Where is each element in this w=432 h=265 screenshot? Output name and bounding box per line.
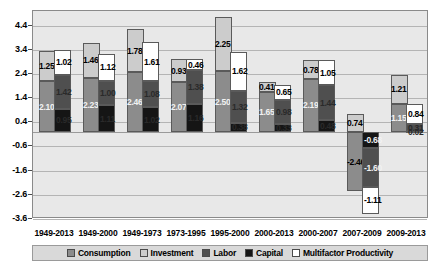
- x-tick-label: 2009-2013: [387, 228, 426, 238]
- bar-stack-supply: 1.111.001.12: [99, 11, 114, 219]
- bar-chart: 4.43.42.41.40.4-0.6-1.6-2.6-3.6 2.101.25…: [0, 0, 432, 265]
- x-tick-label: 2007-2009: [343, 228, 382, 238]
- bar-value-label: 2.23: [83, 101, 98, 110]
- bar-value-label: 1.02: [56, 58, 71, 67]
- bar-value-label: -1.60: [364, 164, 382, 173]
- bar-value-label: 0.38: [232, 123, 247, 132]
- bar-stack-demand: 1.151.21: [392, 11, 407, 219]
- bar-value-label: 1.11: [100, 115, 115, 124]
- bar-value-label: 0.31: [408, 124, 423, 133]
- bar-value-label: 2.50: [215, 98, 230, 107]
- bar-stack-supply: 0.020.310.84: [407, 11, 422, 219]
- legend-swatch-icon: [202, 249, 210, 257]
- bar-value-label: 1.02: [144, 116, 159, 125]
- bar-value-label: 0.48: [320, 122, 335, 131]
- legend-item: Multifactor Productivity: [292, 248, 393, 258]
- bar-stack-supply: 0.951.421.02: [55, 11, 70, 219]
- y-tick-label: -1.6: [12, 165, 27, 175]
- x-tick-label: 1949-2013: [35, 228, 74, 238]
- y-tick-label: 1.4: [15, 92, 27, 102]
- bar-value-label: -1.11: [364, 196, 381, 205]
- bar-value-label: 1.62: [232, 67, 247, 76]
- y-tick-label: -0.6: [12, 140, 27, 150]
- y-axis: 4.43.42.41.40.4-0.6-1.6-2.6-3.6: [0, 0, 32, 228]
- bar-value-label: 0.95: [56, 116, 71, 125]
- x-tick-label: 2000-2013: [255, 228, 294, 238]
- y-tick-mark: [28, 218, 32, 219]
- bar-value-label: 1.78: [127, 47, 142, 56]
- legend-swatch-icon: [67, 249, 75, 257]
- y-tick-label: -2.6: [12, 189, 27, 199]
- bar-stack-supply: -0.68-1.60-1.11: [363, 11, 378, 219]
- bar-value-label: 2.46: [127, 98, 142, 107]
- y-tick-label: -3.6: [12, 213, 27, 223]
- legend-label: Labor: [213, 248, 236, 258]
- bar-value-label: -0.68: [364, 136, 382, 145]
- y-tick-label: 0.4: [15, 116, 27, 126]
- legend-swatch-icon: [245, 249, 253, 257]
- legend-item: Capital: [245, 248, 283, 258]
- bar-stack-supply: 1.161.380.46: [187, 11, 202, 219]
- bar-stack-demand: 2.502.25: [216, 11, 231, 219]
- bar-stack-supply: 0.481.441.05: [319, 11, 334, 219]
- legend-swatch-icon: [292, 249, 300, 257]
- legend-label: Consumption: [78, 248, 131, 258]
- bar-value-label: 0.93: [171, 67, 186, 76]
- legend-item: Consumption: [67, 248, 131, 258]
- bar-value-label: 1.00: [100, 89, 115, 98]
- bar-value-label: 0.74: [347, 119, 362, 128]
- bar-value-label: 1.16: [188, 114, 203, 123]
- bar-value-label: 0.84: [408, 110, 423, 119]
- bar-value-label: 1.05: [320, 69, 335, 78]
- bar-value-label: 2.07: [171, 103, 186, 112]
- bar-value-label: 2.10: [39, 103, 54, 112]
- bar-stack-demand: 2.101.25: [40, 11, 55, 219]
- legend-label: Multifactor Productivity: [303, 248, 393, 258]
- bar-value-label: 1.44: [320, 99, 335, 108]
- bar-value-label: 2.19: [303, 101, 318, 110]
- bar-stack-demand: 2.190.78: [304, 11, 319, 219]
- bar-value-label: 0.78: [303, 66, 318, 75]
- bar-stack-demand: 2.461.78: [128, 11, 143, 219]
- bar-value-label: 1.61: [144, 58, 159, 67]
- bar-stack-demand: 1.650.41: [260, 11, 275, 219]
- bar-value-label: 0.98: [276, 108, 291, 117]
- bar-value-label: 1.65: [259, 108, 274, 117]
- bar-value-label: 0.41: [259, 83, 274, 92]
- bar-stack-supply: 1.021.081.61: [143, 11, 158, 219]
- chart-legend: ConsumptionInvestmentLaborCapitalMultifa…: [32, 245, 428, 261]
- legend-item: Investment: [140, 248, 194, 258]
- bar-value-label: 1.15: [391, 114, 406, 123]
- bar-value-label: 1.21: [391, 85, 406, 94]
- bar-stack-demand: 2.070.93: [172, 11, 187, 219]
- bar-value-label: 1.25: [39, 62, 54, 71]
- bar-value-label: 2.25: [215, 40, 230, 49]
- y-tick-label: 2.4: [15, 68, 27, 78]
- legend-swatch-icon: [140, 249, 148, 257]
- bar-stack-demand: -2.460.74: [348, 11, 363, 219]
- x-tick-label: 1995-2000: [211, 228, 250, 238]
- bar-stack-supply: 0.330.980.65: [275, 11, 290, 219]
- y-tick-label: 4.4: [15, 20, 27, 30]
- bar-stack-demand: 2.231.46: [84, 11, 99, 219]
- bar-value-label: 1.38: [188, 83, 203, 92]
- x-tick-label: 1949-2000: [79, 228, 118, 238]
- bar-value-label: 1.12: [100, 63, 115, 72]
- bar-value-label: 1.42: [56, 88, 71, 97]
- legend-item: Labor: [202, 248, 236, 258]
- bar-value-label: 0.65: [276, 88, 291, 97]
- x-axis: 1949-20131949-20001949-19731973-19951995…: [32, 228, 428, 242]
- y-tick-label: 3.4: [15, 44, 27, 54]
- x-tick-label: 1949-1973: [123, 228, 162, 238]
- x-tick-label: 1973-1995: [167, 228, 206, 238]
- bar-value-label: 1.46: [83, 56, 98, 65]
- legend-label: Investment: [151, 248, 194, 258]
- bar-value-label: 0.33: [276, 124, 291, 133]
- plot-area: 2.101.250.951.421.022.231.461.111.001.12…: [32, 10, 428, 218]
- bar-value-label: 1.08: [144, 90, 159, 99]
- bar-value-label: 1.32: [232, 103, 247, 112]
- bar-stack-supply: 0.381.321.62: [231, 11, 246, 219]
- x-tick-label: 2000-2007: [299, 228, 338, 238]
- legend-label: Capital: [256, 248, 283, 258]
- gridline: [33, 219, 427, 220]
